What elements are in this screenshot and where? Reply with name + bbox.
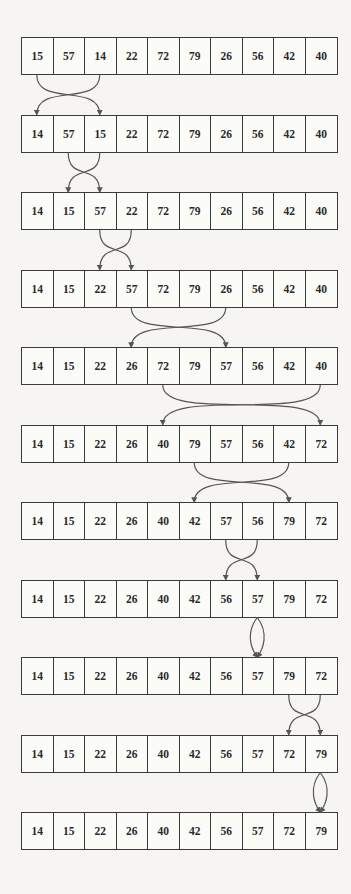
swap-arrow-icon: [250, 618, 257, 658]
swap-arrow-icon: [163, 385, 321, 425]
swap-arrow-icon: [289, 695, 321, 735]
swap-arrow-icon: [320, 773, 327, 813]
swap-arrow-icon: [68, 153, 100, 193]
swap-arrow-icon: [257, 618, 264, 658]
swap-arrow-icon: [226, 540, 258, 580]
swap-arrow-icon: [37, 75, 100, 115]
swap-arrow-icon: [194, 463, 289, 503]
swap-arrow-icon: [100, 230, 132, 270]
swap-arrow-icon: [131, 308, 226, 348]
swap-arrows: [0, 0, 351, 894]
swap-arrow-icon: [313, 773, 320, 813]
